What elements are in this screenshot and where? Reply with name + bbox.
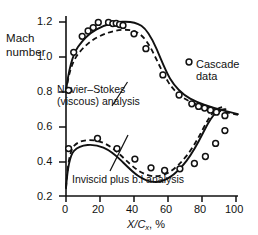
- data-point: [66, 146, 72, 152]
- data-point: [208, 107, 214, 113]
- data-point: [71, 49, 77, 55]
- data-point: [143, 46, 149, 52]
- inviscid-bl-curves: [66, 22, 238, 188]
- data-point: [132, 156, 138, 162]
- data-point: [176, 92, 182, 98]
- leader-line-navier-stokes: [112, 82, 128, 106]
- legend-open-circle-icon: [186, 59, 192, 65]
- data-point: [114, 146, 120, 152]
- data-point: [66, 87, 72, 93]
- data-point: [162, 168, 168, 174]
- data-point: [79, 33, 85, 39]
- data-point: [95, 136, 101, 142]
- inviscid-curve-upper: [66, 22, 238, 114]
- data-point: [120, 23, 126, 29]
- navier-stokes-curve-lower: [66, 107, 226, 188]
- data-point: [95, 20, 101, 26]
- y-axis-ticks: [59, 22, 66, 196]
- data-point: [196, 104, 202, 110]
- data-point: [131, 31, 137, 37]
- x-axis-ticks: [66, 196, 236, 202]
- data-point: [222, 113, 228, 119]
- data-point: [213, 141, 219, 147]
- data-point: [192, 161, 198, 167]
- navier-stokes-curve-upper: [66, 30, 238, 115]
- inviscid-curve-lower: [66, 109, 226, 188]
- cascade-data-markers-lower: [66, 128, 228, 174]
- data-point: [202, 105, 208, 111]
- data-point: [214, 109, 220, 115]
- mach-number-chart-figure: Mach number 1.2 1.0 0.8 0.6 0.4 0.2 0 20…: [0, 0, 258, 235]
- data-point: [177, 166, 183, 172]
- data-point: [222, 128, 228, 134]
- data-point: [148, 165, 154, 171]
- data-point: [90, 25, 96, 31]
- data-point: [203, 154, 209, 160]
- data-point: [189, 101, 195, 107]
- data-point: [160, 72, 166, 78]
- plot-canvas: [0, 0, 258, 235]
